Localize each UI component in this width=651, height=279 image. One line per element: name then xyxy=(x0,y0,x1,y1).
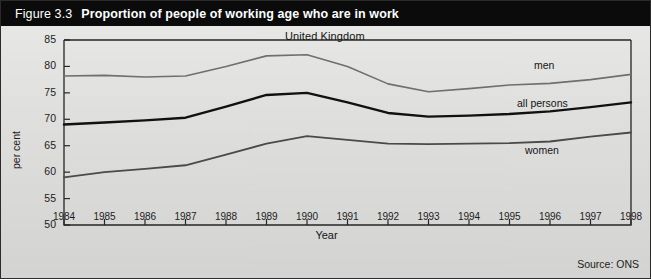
x-tick-label: 1986 xyxy=(127,211,163,222)
y-tick-label: 55 xyxy=(30,192,56,204)
chart-subtitle: United Kingdom xyxy=(285,30,365,42)
figure-title-bar: Figure 3.3 Proportion of people of worki… xyxy=(1,1,651,26)
figure-container: Figure 3.3 Proportion of people of worki… xyxy=(0,0,651,279)
series-label-women: women xyxy=(525,144,559,156)
y-tick-label: 75 xyxy=(30,86,56,98)
x-tick-label: 1988 xyxy=(208,211,244,222)
y-tick-label: 85 xyxy=(30,33,56,45)
y-tick-label: 70 xyxy=(30,112,56,124)
x-tick-label: 1995 xyxy=(492,211,528,222)
series-label-all-persons: all persons xyxy=(517,97,568,109)
x-tick-label: 1989 xyxy=(249,211,285,222)
x-tick-label: 1987 xyxy=(168,211,204,222)
chart-plot-area: United Kingdom per cent Year 50556065707… xyxy=(1,26,651,255)
source-note: Source: ONS xyxy=(577,258,639,270)
series-label-men: men xyxy=(534,59,554,71)
x-tick-label: 1996 xyxy=(532,211,568,222)
y-tick-label: 65 xyxy=(30,139,56,151)
x-tick-label: 1984 xyxy=(46,211,82,222)
x-tick-label: 1985 xyxy=(87,211,123,222)
x-tick-label: 1990 xyxy=(289,211,325,222)
y-axis-title: per cent xyxy=(10,121,22,179)
figure-number: Figure 3.3 xyxy=(15,7,72,21)
x-tick-label: 1993 xyxy=(411,211,447,222)
x-tick-label: 1997 xyxy=(573,211,609,222)
y-tick-label: 80 xyxy=(30,59,56,71)
x-tick-label: 1992 xyxy=(370,211,406,222)
y-tick-label: 60 xyxy=(30,165,56,177)
x-tick-label: 1991 xyxy=(330,211,366,222)
figure-title: Proportion of people of working age who … xyxy=(81,7,399,21)
x-axis-title: Year xyxy=(1,229,651,241)
x-tick-label: 1998 xyxy=(613,211,649,222)
x-tick-label: 1994 xyxy=(451,211,487,222)
